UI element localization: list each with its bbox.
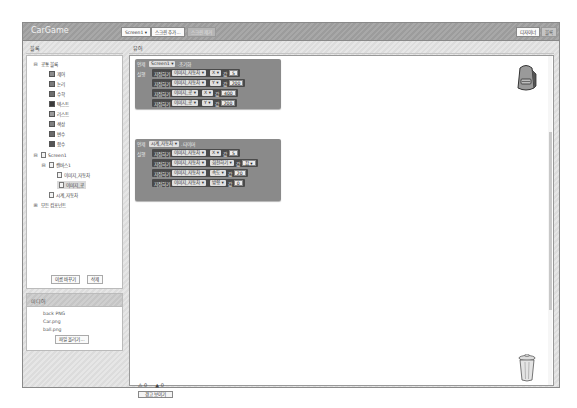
collapse-icon[interactable]: ⊟ — [33, 153, 38, 158]
component-dropdown[interactable]: 이미지_자동차 ▾ — [172, 70, 206, 76]
component-dropdown[interactable]: 이미지_공 ▾ — [172, 100, 198, 106]
component-dropdown[interactable]: 이미지_공 ▾ — [172, 90, 198, 96]
component-dropdown[interactable]: 이미지_자동차 ▾ — [172, 150, 206, 156]
error-count-value: 0 — [161, 382, 164, 388]
boolean-block[interactable]: 참 ▾ — [242, 160, 256, 166]
collapse-icon[interactable]: ⊟ — [41, 163, 46, 168]
tree-item-label: 논리 — [57, 81, 65, 87]
do-label: 실행 — [137, 70, 145, 77]
blocks-workspace[interactable]: 언제 Screen1 ▾ .초기화 실행 지정하기 이미지_자동차 ▾ X ▾ … — [129, 55, 554, 386]
number-block[interactable]: 0 — [234, 180, 243, 186]
error-triangle-icon: ▲ — [155, 382, 159, 388]
to-label: 값 — [223, 150, 227, 157]
to-label: 값 — [228, 170, 232, 177]
when-label: 언제 — [137, 60, 145, 67]
property-dropdown[interactable]: 속도 ▾ — [210, 170, 226, 176]
show-warnings-button[interactable]: 경고 보이기 — [138, 391, 173, 398]
set-block[interactable]: 지정하기 이미지_자동차 ▾ X ▾ 값 5 — [152, 69, 240, 77]
tree-item-label: 모든 컴포넌트 — [41, 202, 66, 208]
upload-file-button[interactable]: 파일 올리기... — [55, 335, 89, 344]
designer-button[interactable]: 디자이너 — [516, 27, 540, 37]
component-dropdown[interactable]: 이미지_자동차 ▾ — [172, 80, 206, 86]
property-dropdown[interactable]: Y ▾ — [202, 100, 213, 106]
add-screen-button[interactable]: 스크린 추가... — [151, 27, 185, 37]
set-block[interactable]: 지정하기 이미지_자동차 ▾ 방향 ▾ 값 0 — [152, 179, 245, 187]
tree-item-label: 색상 — [57, 121, 65, 127]
set-label: 지정하기 — [154, 170, 170, 177]
tree-sprite-car[interactable]: 이미지_자동차 — [57, 171, 90, 179]
tree-item-logic[interactable]: 논리 — [49, 80, 65, 88]
delete-button[interactable]: 삭제 — [87, 275, 103, 284]
tree-item-lists[interactable]: 리스트 — [49, 110, 69, 118]
tree-item-label: 제어 — [57, 71, 65, 77]
trash-icon[interactable] — [517, 354, 537, 382]
tree-sprite-ball[interactable]: 이미지_공 — [57, 181, 86, 189]
tree-item-colors[interactable]: 색상 — [49, 120, 65, 128]
control-color-icon — [49, 71, 55, 77]
set-label: 지정하기 — [154, 150, 170, 157]
tree-item-label: 함수 — [57, 141, 65, 147]
set-label: 지정하기 — [154, 100, 170, 107]
tree-item-label: 이미지_자동차 — [64, 172, 90, 178]
rename-button[interactable]: 이름 바꾸기 — [51, 275, 80, 284]
component-dropdown[interactable]: 시계_자동차 ▾ — [149, 141, 179, 147]
colors-color-icon — [49, 121, 55, 127]
tree-canvas1[interactable]: ⊟ 캔버스1 — [41, 161, 71, 169]
tree-screen1[interactable]: ⊟ Screen1 — [33, 151, 67, 159]
media-file[interactable]: ball.png — [43, 327, 62, 332]
set-block[interactable]: 지정하기 이미지_자동차 ▾ 속도 ▾ 값 20 — [152, 169, 248, 177]
collapse-icon[interactable]: ⊟ — [33, 62, 38, 67]
property-dropdown[interactable]: 회전하기 ▾ — [210, 160, 234, 166]
when-label: 언제 — [137, 140, 145, 147]
tree-clock[interactable]: 시계_자동차 — [49, 191, 78, 199]
media-file[interactable]: back PNG — [43, 311, 65, 316]
tree-builtin[interactable]: ⊟ 공통 블록 — [33, 60, 58, 68]
vertical-scrollbar-thumb[interactable] — [549, 132, 552, 310]
tree-item-label: 텍스트 — [57, 101, 69, 107]
property-dropdown[interactable]: 방향 ▾ — [210, 180, 226, 186]
set-block[interactable]: 지정하기 이미지_자동차 ▾ 회전하기 ▾ 값 참 ▾ — [152, 159, 258, 167]
blocks-tree-panel: ⊟ 공통 블록 제어 논리 수학 텍스트 리스트 — [26, 55, 123, 289]
property-dropdown[interactable]: Y ▾ — [210, 80, 221, 86]
set-block[interactable]: 지정하기 이미지_자동차 ▾ Y ▾ 값 200 — [152, 79, 245, 87]
screen-select[interactable]: Screen1 ▾ — [121, 27, 151, 37]
tree-item-label: 변수 — [57, 131, 65, 137]
to-label: 값 — [223, 70, 227, 77]
set-block[interactable]: 지정하기 이미지_공 ▾ Y ▾ 값 200 — [152, 99, 237, 107]
tree-item-control[interactable]: 제어 — [49, 70, 65, 78]
property-dropdown[interactable]: X ▾ — [202, 90, 213, 96]
set-block[interactable]: 지정하기 이미지_공 ▾ X ▾ 값 400 — [152, 89, 238, 97]
component-dropdown[interactable]: 이미지_자동차 ▾ — [172, 160, 206, 166]
tree-item-text[interactable]: 텍스트 — [49, 100, 69, 108]
component-dropdown[interactable]: 이미지_자동차 ▾ — [172, 180, 206, 186]
component-dropdown[interactable]: Screen1 ▾ — [149, 61, 175, 67]
to-label: 값 — [228, 180, 232, 187]
tree-item-variables[interactable]: 변수 — [49, 130, 65, 138]
to-label: 값 — [215, 100, 219, 107]
set-block[interactable]: 지정하기 이미지_자동차 ▾ X ▾ 값 5 — [152, 149, 240, 157]
tree-any-component[interactable]: ⊞ 모든 컴포넌트 — [33, 201, 66, 209]
warning-count-value: 0 — [144, 382, 147, 388]
tree-item-label: 리스트 — [57, 111, 69, 117]
backpack-icon[interactable] — [514, 64, 538, 92]
tree-item-procedures[interactable]: 함수 — [49, 140, 65, 148]
property-dropdown[interactable]: X ▾ — [210, 70, 221, 76]
set-label: 지정하기 — [154, 90, 170, 97]
number-block[interactable]: 200 — [221, 100, 236, 106]
expand-icon[interactable]: ⊞ — [33, 203, 38, 208]
blocks-button[interactable]: 블록 — [541, 27, 557, 37]
media-file[interactable]: Car.png — [43, 319, 61, 324]
number-block[interactable]: 5 — [229, 70, 238, 76]
component-dropdown[interactable]: 이미지_자동차 ▾ — [172, 170, 206, 176]
remove-screen-button[interactable]: 스크린 제거 — [187, 27, 216, 37]
number-block[interactable]: 200 — [229, 80, 244, 86]
number-block[interactable]: 20 — [234, 170, 246, 176]
property-dropdown[interactable]: X ▾ — [210, 150, 221, 156]
tree-item-math[interactable]: 수학 — [49, 90, 65, 98]
event-block-screen-initialize[interactable]: 언제 Screen1 ▾ .초기화 실행 지정하기 이미지_자동차 ▾ X ▾ … — [135, 59, 281, 109]
number-block[interactable]: 400 — [221, 90, 236, 96]
to-label: 값 — [223, 80, 227, 87]
number-block[interactable]: 5 — [229, 150, 238, 156]
event-block-clock-timer[interactable]: 언제 시계_자동차 ▾ .타이머 실행 지정하기 이미지_자동차 ▾ X ▾ 값… — [135, 139, 281, 201]
screen-icon — [41, 152, 46, 158]
